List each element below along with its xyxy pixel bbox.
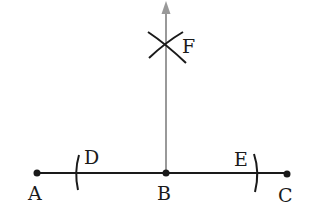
label-a: A (28, 184, 42, 203)
label-e: E (234, 150, 248, 169)
point-a (34, 170, 41, 177)
arrowhead-icon (162, 1, 171, 14)
point-b (163, 170, 170, 177)
label-b: B (157, 184, 171, 203)
point-c (284, 171, 291, 178)
label-d: D (84, 148, 99, 167)
label-c: C (278, 186, 293, 205)
label-f: F (182, 37, 195, 56)
